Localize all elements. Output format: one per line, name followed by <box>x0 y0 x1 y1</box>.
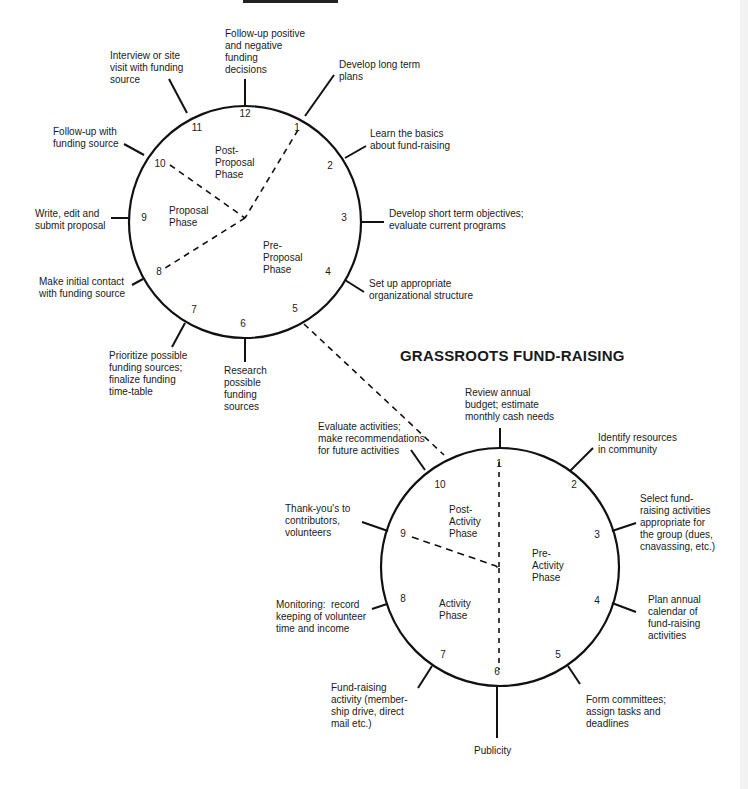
hour-4: 4 <box>325 267 331 277</box>
post-activity-phase: Post- Activity Phase <box>449 504 481 540</box>
step-num-9: 9 <box>400 529 406 539</box>
activity-phase: Activity Phase <box>439 598 471 622</box>
step-10-label: Evaluate activities; make recommendation… <box>318 421 425 457</box>
pre-proposal-phase: Pre- Proposal Phase <box>263 240 302 276</box>
hour-1: 1 <box>294 123 300 133</box>
hour-12: 12 <box>239 109 250 119</box>
step-10-label: Follow-up with funding source <box>53 126 119 150</box>
step-12-label: Follow-up positive and negative funding … <box>225 28 305 76</box>
step-6-label: Research possible funding sources <box>224 365 267 413</box>
hour-6: 6 <box>240 319 246 329</box>
step-2-label: Identify resources in community <box>598 432 677 456</box>
step-num-4: 4 <box>594 596 600 606</box>
hour-11: 11 <box>192 123 202 133</box>
post-proposal-phase: Post- Proposal Phase <box>215 145 254 181</box>
step-8-label: Make initial contact with funding source <box>39 276 125 300</box>
hour-9: 9 <box>141 213 147 223</box>
proposal-phase: Proposal Phase <box>169 205 208 229</box>
step-9-label: Write, edit and submit proposal <box>35 208 106 232</box>
hour-3: 3 <box>341 213 347 223</box>
step-num-10: 10 <box>434 480 445 490</box>
step-1-label: Develop long term plans <box>339 59 420 83</box>
step-7-label: Fund-raising activity (member- ship driv… <box>331 682 408 730</box>
step-9-label: Thank-you's to contributors, volunteers <box>285 503 350 539</box>
step-5-label: Form committees; assign tasks and deadli… <box>586 694 666 730</box>
step-3-label: Develop short term objectives; evaluate … <box>389 208 524 232</box>
step-num-8: 8 <box>400 594 406 604</box>
step-num-5: 5 <box>555 650 561 660</box>
step-11-label: Interview or site visit with funding sou… <box>110 50 183 86</box>
step-num-1: 1 <box>496 459 502 469</box>
step-4-label: Set up appropriate organizational struct… <box>369 278 473 302</box>
hour-8: 8 <box>156 267 162 277</box>
step-8-label: Monitoring: record keeping of volunteer … <box>276 599 366 635</box>
hour-5: 5 <box>292 304 298 314</box>
hour-2: 2 <box>327 161 333 171</box>
step-7-label: Prioritize possible funding sources; fin… <box>109 350 187 398</box>
top-title-fragment <box>243 0 338 3</box>
grassroots-title: GRASSROOTS FUND-RAISING <box>400 347 625 364</box>
step-num-2: 2 <box>571 480 577 490</box>
hour-7: 7 <box>191 305 197 315</box>
step-4-label: Plan annual calendar of fund-raising act… <box>648 594 701 642</box>
step-num-7: 7 <box>440 650 446 660</box>
pre-activity-phase: Pre- Activity Phase <box>532 548 564 584</box>
step-2-label: Learn the basics about fund-raising <box>370 128 450 152</box>
step-num-3: 3 <box>594 530 600 540</box>
step-6-label: Publicity <box>474 745 511 757</box>
step-3-label: Select fund- raising activities appropri… <box>640 493 715 553</box>
step-num-6: 6 <box>494 667 500 677</box>
hour-10: 10 <box>154 159 165 169</box>
step-1-label: Review annual budget; estimate monthly c… <box>465 387 554 423</box>
